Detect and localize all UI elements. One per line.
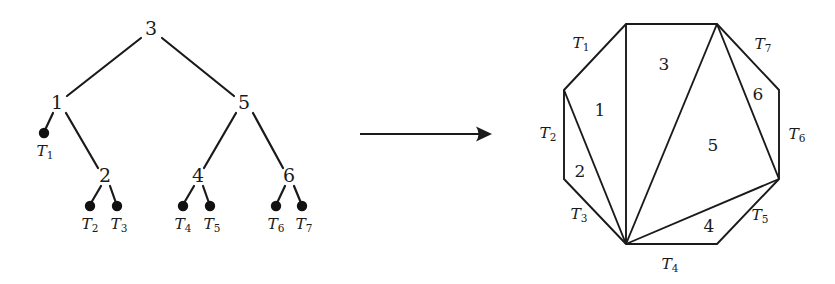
leaf-label-subscript: 6: [278, 222, 285, 234]
leaf-label-subscript: 1: [47, 149, 54, 161]
tree-edge-n5-n6: [253, 113, 283, 168]
tree-leaf-dot-l4: [178, 201, 188, 211]
tree-leaf-label-l4: T4: [174, 215, 191, 234]
tree-edge-n4-l5: [203, 186, 209, 203]
polygon-side-label-s4: T4: [661, 255, 678, 274]
tree-leaf-dot-l6: [271, 201, 281, 211]
leaf-label-subscript: 4: [185, 222, 192, 234]
polygon-side-label-group: T1T2T3T4T5T6T7: [539, 34, 805, 274]
maps-to-arrow: [360, 127, 492, 142]
tree-leaf-label-l2: T2: [81, 215, 98, 234]
tree-node-label-n2: 2: [99, 164, 111, 186]
tree-leaf-dot-l2: [85, 201, 95, 211]
tree-leaf-label-l1: T1: [36, 142, 53, 161]
side-label-subscript: 3: [581, 212, 588, 224]
polygon-region-label-r1: 1: [595, 100, 606, 120]
polygon-region-label-group: 123456: [575, 54, 764, 236]
tree-leaf-dot-l7: [297, 201, 307, 211]
tree-leaf-dot-l5: [205, 201, 215, 211]
side-label-subscript: 1: [583, 41, 590, 53]
tree-node-label-n4: 4: [192, 164, 204, 186]
side-label-subscript: 5: [762, 213, 769, 225]
tree-leaf-label-l6: T6: [267, 215, 284, 234]
figure-canvas: 315246 T1T2T3T4T5T6T7 123456 T1T2T3T4T5T…: [0, 0, 835, 284]
polygon-region-label-r2: 2: [575, 161, 586, 181]
tree-edge-n1-l1: [45, 113, 53, 130]
polygon-region-label-r4: 4: [704, 216, 715, 236]
leaf-label-subscript: 3: [121, 222, 128, 234]
polygon-region-label-r3: 3: [659, 54, 670, 74]
side-label-subscript: 2: [550, 131, 557, 143]
tree-edge-n6-l6: [277, 186, 285, 203]
polygon-side-label-s5: T5: [751, 206, 768, 225]
tree-edge-n4-l4: [184, 186, 194, 203]
tree-leaf-label-l5: T5: [203, 215, 220, 234]
tree-edge-n3-n1: [67, 38, 141, 96]
tree-leaf-label-group: T1T2T3T4T5T6T7: [36, 142, 312, 234]
tree-leaf-dot-l1: [39, 128, 49, 138]
tree-leaf-label-l7: T7: [295, 215, 312, 234]
leaf-label-subscript: 5: [214, 222, 221, 234]
polygon-side-label-s2: T2: [539, 124, 556, 143]
tree-edge-group: [45, 38, 301, 203]
tree-edge-n2-l2: [91, 186, 101, 203]
tree-leaf-dot-l3: [112, 201, 122, 211]
tree-node-label-n5: 5: [238, 91, 250, 113]
tree-node-label-n3: 3: [145, 17, 157, 39]
tree-edge-n1-n2: [66, 113, 98, 168]
tree-edge-n6-l7: [294, 186, 301, 203]
tree-node-label-n6: 6: [283, 164, 295, 186]
polygon-side-label-s7: T7: [754, 35, 771, 54]
tree-edge-n2-l3: [110, 186, 116, 203]
polygon-side-label-s3: T3: [570, 205, 587, 224]
tree-edge-n3-n5: [162, 38, 234, 96]
side-label-subscript: 7: [765, 42, 772, 54]
tree-diagram: 315246 T1T2T3T4T5T6T7 123456 T1T2T3T4T5T…: [0, 0, 835, 284]
polygon-side-label-s1: T1: [572, 34, 589, 53]
polygon-side-label-s6: T6: [788, 125, 805, 144]
tree-node-label-n1: 1: [51, 91, 63, 113]
leaf-label-subscript: 2: [92, 222, 99, 234]
tree-leaf-label-l3: T3: [110, 215, 127, 234]
side-label-subscript: 4: [672, 262, 679, 274]
leaf-label-subscript: 7: [306, 222, 313, 234]
polygon-region-label-r6: 6: [753, 84, 764, 104]
side-label-subscript: 6: [799, 132, 806, 144]
polygon-region-label-r5: 5: [708, 135, 719, 155]
tree-edge-n5-n4: [204, 113, 236, 168]
tree-node-label-group: 315246: [51, 17, 295, 186]
